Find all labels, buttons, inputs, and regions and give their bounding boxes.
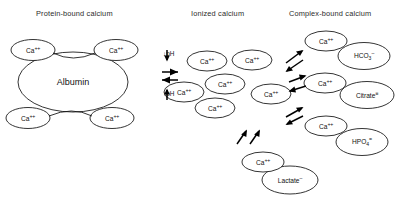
calcium-ion-label: Ca++ xyxy=(264,90,278,99)
calcium-ion-label: Ca++ xyxy=(177,88,191,97)
calcium-ion-label: Ca++ xyxy=(245,56,259,65)
calcium-ion-label: Ca++ xyxy=(109,46,123,55)
ph-increase-label: ↑pH xyxy=(163,90,174,97)
ph-decrease-label: ↓pH xyxy=(163,50,174,57)
calcium-ion-label: Ca++ xyxy=(256,158,270,167)
calcium-ion-label: Ca++ xyxy=(21,114,35,123)
equilibrium-arrow-to-lactate xyxy=(237,130,260,145)
lactate-label: Lactate– xyxy=(278,176,302,185)
equilibrium-arrow-to-phosphate xyxy=(286,107,304,125)
albumin-label: Albumin xyxy=(57,78,90,87)
bicarbonate-label: HCO3– xyxy=(354,51,374,62)
calcium-ion-label: Ca++ xyxy=(105,114,119,123)
calcium-ion-label: Ca++ xyxy=(218,80,232,89)
diagram-shapes xyxy=(0,0,410,205)
calcium-ion-label: Ca++ xyxy=(319,37,333,46)
phosphate-label: HPO4= xyxy=(352,137,372,148)
citrate-label: Citrate≡ xyxy=(356,91,378,100)
calcium-ion-label: Ca++ xyxy=(319,122,333,131)
complex-bicarbonate xyxy=(305,31,390,70)
calcium-fractions-diagram: Protein-bound calcium Ionized calcium Co… xyxy=(0,0,410,205)
calcium-ion-label: Ca++ xyxy=(318,79,332,88)
equilibrium-arrow-to-bicarbonate xyxy=(286,50,304,72)
calcium-ion-label: Ca++ xyxy=(26,46,40,55)
calcium-ion-label: Ca++ xyxy=(200,57,214,66)
complex-lactate xyxy=(242,152,318,194)
calcium-ion-label: Ca++ xyxy=(208,104,222,113)
complex-phosphate xyxy=(305,116,388,156)
